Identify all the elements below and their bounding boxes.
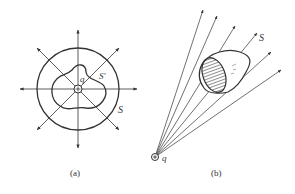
charge-label-b: q (162, 153, 167, 163)
inner-surface-label: S' (99, 71, 107, 81)
figure-b: q S (b) (152, 10, 282, 178)
point-charge-a (74, 85, 82, 93)
point-charge-b (152, 154, 159, 161)
diagram-canvas: q S' S (a) q S (b) (0, 0, 295, 194)
caption-a: (a) (70, 168, 80, 178)
figure-a: q S' S (a) (20, 30, 137, 178)
field-line-4 (155, 33, 257, 157)
surface-label-b: S (259, 32, 264, 43)
charge-label-a: q (80, 74, 85, 84)
closed-surface-s (198, 51, 250, 96)
caption-b: (b) (211, 168, 222, 178)
outer-surface-label-a: S (118, 104, 123, 115)
